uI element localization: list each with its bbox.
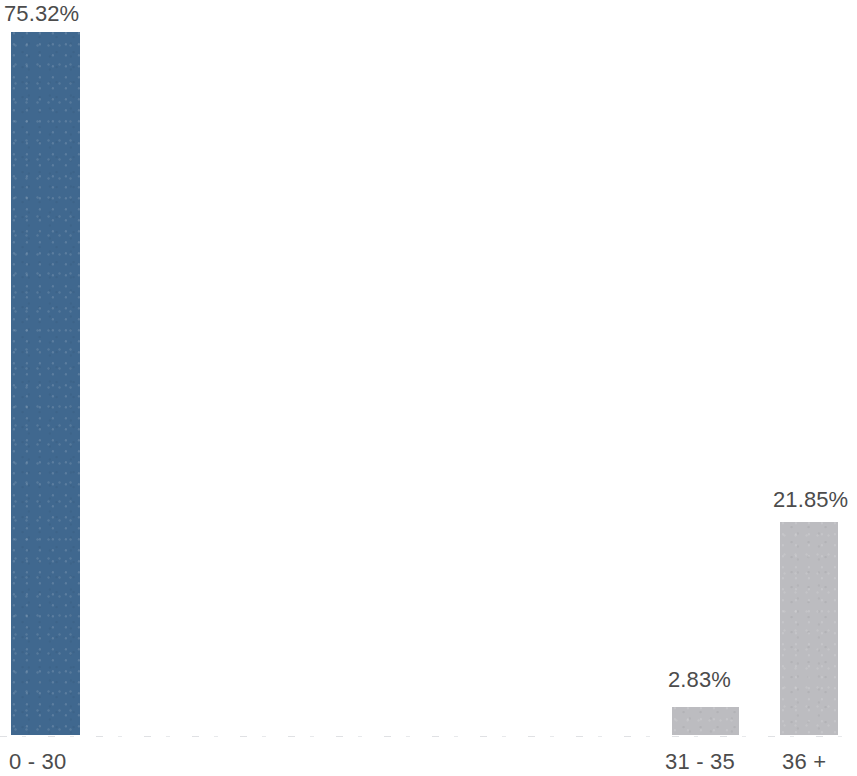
bar-36-plus xyxy=(780,522,838,735)
bar-31-35 xyxy=(672,707,739,735)
category-label-0-30: 0 - 30 xyxy=(9,751,66,773)
axis-baseline xyxy=(0,736,857,737)
value-label-31-35: 2.83% xyxy=(668,669,731,691)
category-label-31-35: 31 - 35 xyxy=(665,751,735,773)
bar-0-30 xyxy=(11,32,80,735)
bar-chart: 75.32% 2.83% 21.85% 0 - 30 31 - 35 36 + xyxy=(0,0,857,776)
value-label-36-plus: 21.85% xyxy=(773,489,848,511)
category-label-36-plus: 36 + xyxy=(782,751,826,773)
value-label-0-30: 75.32% xyxy=(4,3,79,25)
